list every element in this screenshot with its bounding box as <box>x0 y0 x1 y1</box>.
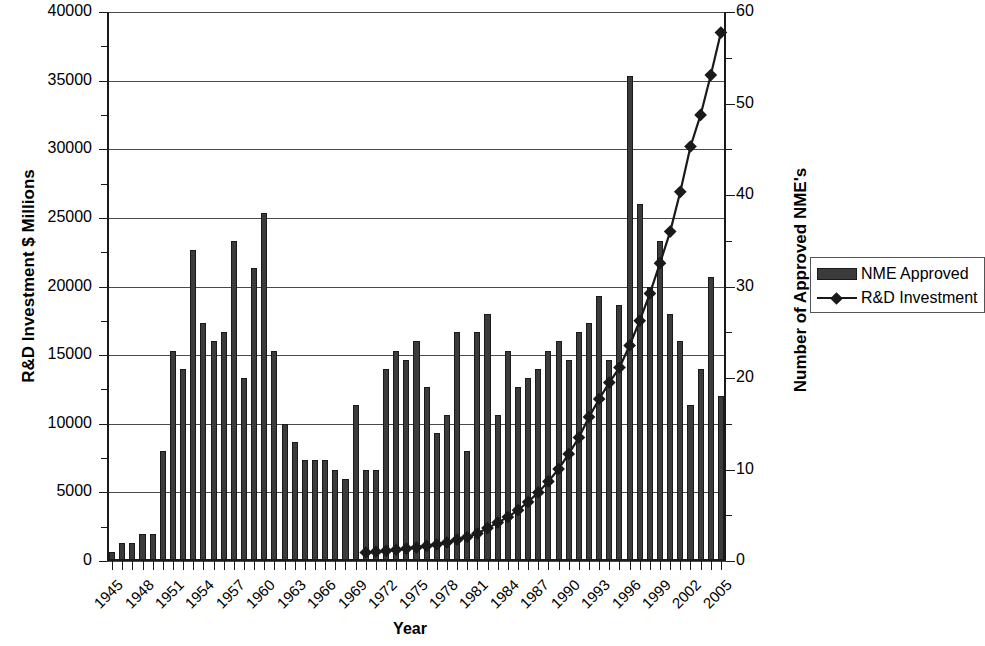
diamond-marker-icon <box>715 26 728 39</box>
x-tick-mark <box>477 561 478 570</box>
x-tick-mark <box>244 561 245 570</box>
right-axis-title: Number of Approved NME's <box>790 0 812 560</box>
left-tick-label: 40000 <box>30 2 92 20</box>
diamond-marker-icon <box>430 538 443 551</box>
x-tick-mark <box>579 561 580 570</box>
x-tick-mark <box>274 561 275 570</box>
x-tick-mark <box>254 561 255 570</box>
diamond-marker-icon <box>400 542 413 555</box>
diamond-marker-icon <box>583 411 596 424</box>
right-minor-tick-mark <box>726 515 732 516</box>
x-tick-mark <box>376 561 377 570</box>
left-tick-label: 30000 <box>30 139 92 157</box>
left-tick-mark <box>99 81 107 82</box>
x-tick-mark <box>589 561 590 570</box>
x-tick-mark <box>680 561 681 570</box>
diamond-marker-icon <box>481 522 494 535</box>
right-minor-tick-mark <box>726 149 732 150</box>
x-tick-mark <box>701 561 702 570</box>
x-tick-mark <box>569 561 570 570</box>
left-tick-label: 5000 <box>30 482 92 500</box>
diamond-marker-icon <box>370 545 383 558</box>
x-axis-title: Year <box>350 620 470 638</box>
legend-label-rnd: R&D Investment <box>861 289 977 307</box>
diamond-marker-icon <box>830 292 843 305</box>
diamond-marker-icon <box>461 531 474 544</box>
x-tick-mark <box>264 561 265 570</box>
right-tick-mark <box>726 195 735 196</box>
right-tick-mark <box>726 287 735 288</box>
diamond-marker-icon <box>664 225 677 238</box>
x-tick-mark <box>345 561 346 570</box>
x-tick-mark <box>609 561 610 570</box>
x-tick-mark <box>467 561 468 570</box>
x-tick-mark <box>406 561 407 570</box>
x-tick-mark <box>163 561 164 570</box>
x-tick-mark <box>214 561 215 570</box>
left-tick-mark <box>99 424 107 425</box>
x-tick-mark <box>437 561 438 570</box>
x-tick-mark <box>285 561 286 570</box>
diamond-marker-icon <box>704 69 717 82</box>
x-tick-mark <box>335 561 336 570</box>
x-tick-mark <box>640 561 641 570</box>
x-tick-mark <box>518 561 519 570</box>
diamond-marker-icon <box>359 546 372 559</box>
line-path <box>366 33 721 553</box>
left-tick-mark <box>99 355 107 356</box>
right-tick-label: 50 <box>736 94 766 112</box>
left-tick-mark <box>99 561 107 562</box>
x-tick-mark <box>356 561 357 570</box>
x-tick-mark <box>153 561 154 570</box>
left-tick-label: 20000 <box>30 277 92 295</box>
diamond-marker-icon <box>491 516 504 529</box>
x-tick-mark <box>295 561 296 570</box>
x-tick-mark <box>427 561 428 570</box>
diamond-marker-icon <box>654 257 667 270</box>
diamond-marker-icon <box>603 376 616 389</box>
right-tick-label: 20 <box>736 368 766 386</box>
right-minor-tick-mark <box>726 424 732 425</box>
left-tick-label: 35000 <box>30 71 92 89</box>
right-minor-tick-mark <box>726 241 732 242</box>
x-tick-mark <box>711 561 712 570</box>
diamond-marker-icon <box>410 541 423 554</box>
x-tick-mark <box>366 561 367 570</box>
diamond-marker-icon <box>390 543 403 556</box>
x-tick-mark <box>305 561 306 570</box>
x-tick-mark <box>630 561 631 570</box>
left-tick-label: 15000 <box>30 345 92 363</box>
diamond-marker-icon <box>441 536 454 549</box>
x-tick-mark <box>528 561 529 570</box>
x-tick-mark <box>721 561 722 570</box>
diamond-marker-icon <box>674 185 687 198</box>
legend-line-swatch <box>817 291 857 305</box>
diamond-marker-icon <box>420 540 433 553</box>
x-tick-mark <box>386 561 387 570</box>
x-tick-mark <box>619 561 620 570</box>
diamond-marker-icon <box>501 511 514 524</box>
x-tick-mark <box>203 561 204 570</box>
x-tick-mark <box>498 561 499 570</box>
x-tick-mark <box>559 561 560 570</box>
diamond-marker-icon <box>623 339 636 352</box>
right-tick-label: 10 <box>736 460 766 478</box>
diamond-marker-icon <box>471 527 484 540</box>
x-tick-mark <box>325 561 326 570</box>
right-tick-label: 40 <box>736 185 766 203</box>
legend-label-nme: NME Approved <box>861 265 969 283</box>
right-tick-label: 0 <box>736 551 766 569</box>
diamond-marker-icon <box>684 140 697 153</box>
diamond-marker-icon <box>613 361 626 374</box>
right-tick-mark <box>726 12 735 13</box>
plot-area <box>107 12 726 561</box>
x-tick-mark <box>234 561 235 570</box>
diamond-marker-icon <box>633 314 646 327</box>
right-tick-mark <box>726 470 735 471</box>
x-tick-mark <box>122 561 123 570</box>
left-tick-mark <box>99 218 107 219</box>
left-tick-label: 10000 <box>30 414 92 432</box>
diamond-marker-icon <box>451 533 464 546</box>
x-tick-mark <box>457 561 458 570</box>
